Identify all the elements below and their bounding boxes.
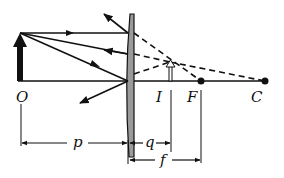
label-image-I: I bbox=[155, 88, 163, 106]
ray-direction-arrow bbox=[66, 30, 74, 36]
virtual-ray-extensions bbox=[134, 33, 265, 81]
incident-rays bbox=[20, 33, 128, 81]
focal-point-F bbox=[198, 78, 205, 85]
label-q: q bbox=[145, 133, 155, 151]
ray-direction-arrow bbox=[90, 60, 100, 67]
ray-diagram: O I F C p q f bbox=[0, 0, 284, 178]
dimension-guides bbox=[21, 90, 201, 164]
label-object-O: O bbox=[16, 88, 28, 106]
label-focal-F: F bbox=[186, 88, 198, 106]
center-point-C bbox=[262, 78, 269, 85]
label-p: p bbox=[73, 133, 83, 151]
label-center-C: C bbox=[251, 88, 263, 106]
object-arrow bbox=[13, 33, 27, 81]
refracted-rays bbox=[80, 14, 128, 103]
diverging-lens bbox=[127, 14, 134, 157]
label-f: f bbox=[159, 151, 168, 169]
